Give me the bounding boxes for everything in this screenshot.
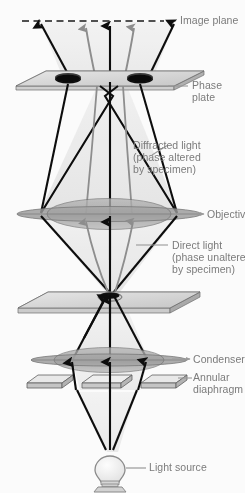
label-annular-line1: Annular: [193, 371, 230, 383]
annular-plate-right: [141, 375, 187, 388]
label-diffracted-line2: (phase altered: [133, 151, 201, 163]
label-annular-line2: diaphragm: [193, 383, 243, 395]
annular-plate-left: [27, 375, 73, 388]
label-phase-plate-line2: plate: [192, 91, 215, 103]
label-condenser-lens: Condenser lens: [193, 353, 245, 365]
label-phase-plate-line1: Phase: [192, 79, 222, 91]
label-image-plane: Image plane: [180, 14, 238, 26]
light-source: [94, 456, 146, 492]
label-direct-line1: Direct light: [172, 239, 222, 251]
label-objective-lens: Objective lens: [207, 208, 245, 220]
label-light-source: Light source: [149, 461, 207, 473]
label-diffracted-line1: Diffracted light: [133, 139, 201, 151]
label-diffracted-line3: by specimen): [133, 163, 196, 175]
label-direct-line3: by specimen): [172, 263, 235, 275]
figure-canvas: Image plane Phase plate Diffracted light…: [0, 0, 245, 493]
label-direct-line2: (phase unaltered: [172, 251, 245, 263]
